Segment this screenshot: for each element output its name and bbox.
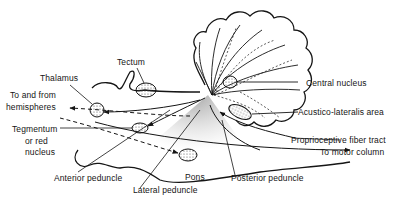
dashed-fibers xyxy=(214,28,292,118)
label-anterior-peduncle: Anterior peduncle xyxy=(54,173,122,183)
diagram-drawing xyxy=(0,0,404,200)
label-central-nucleus: Central nucleus xyxy=(306,78,367,88)
acustico-lateralis-area xyxy=(227,101,254,122)
label-hemispheres: hemispheres xyxy=(6,102,56,112)
label-proprioceptive: Proprioceptive fiber tract xyxy=(291,135,386,145)
label-posterior-peduncle: Posterior peduncle xyxy=(231,173,304,183)
pons xyxy=(179,149,197,161)
label-to-and-from: To and from xyxy=(10,90,56,100)
label-tectum: Tectum xyxy=(117,57,145,67)
label-acustico-lateralis: Acustico-lateralis area xyxy=(298,107,384,117)
label-lateral-peduncle: Lateral peduncle xyxy=(133,185,197,195)
label-thalamus: Thalamus xyxy=(40,73,78,83)
label-or-red: or red xyxy=(25,136,48,146)
label-tegmentum: Tegmentum xyxy=(12,124,57,134)
label-pons: Pons xyxy=(185,172,205,182)
tectum xyxy=(136,83,156,97)
cerebellum-diagram: Tectum Thalamus To and from hemispheres … xyxy=(0,0,404,200)
central-nucleus xyxy=(223,76,237,88)
label-to-motor-column: To motor column xyxy=(320,147,384,157)
cerebellar-fibers xyxy=(196,25,300,95)
label-nucleus: nucleus xyxy=(25,147,55,157)
